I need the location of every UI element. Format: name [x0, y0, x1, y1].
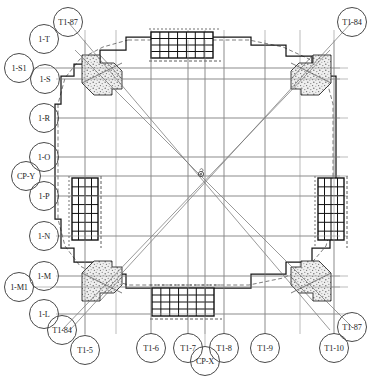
grid-bubble-label: 1-R	[38, 113, 50, 122]
grid-bubble-label: 1-M	[37, 271, 51, 280]
grid-bubble-t1-9[interactable]: T1-9	[250, 333, 280, 363]
grid-bubble-label: T1-5	[77, 345, 92, 354]
corner-top-right	[291, 55, 331, 95]
grid-bubble-1-p[interactable]: 1-P	[29, 181, 59, 211]
grid-bubble-t1-87[interactable]: T1-87	[53, 7, 83, 37]
rebar-block-top	[149, 29, 221, 61]
grid-bubble-label: T1-84	[342, 17, 361, 26]
grid-bubble-label: 1-O	[38, 152, 50, 161]
grid-bubble-1-s[interactable]: 1-S	[30, 64, 60, 94]
grid-bubble-label: T1-9	[257, 343, 272, 352]
grid-bubble-label: T1-87	[342, 322, 361, 331]
grid-bubble-1-r[interactable]: 1-R	[29, 103, 59, 133]
grid-bubble-label: 1-T	[38, 34, 49, 43]
grid-bubble-label: 1-S	[40, 74, 51, 83]
grid-bubble-label: T1-8	[216, 343, 231, 352]
grid-bubble-t1-84[interactable]: T1-84	[47, 315, 77, 345]
grid-bubble-1-m1[interactable]: 1-M1	[4, 272, 34, 302]
drawing-canvas: 1-T1-S11-S1-R1-OCP-Y1-P1-N1-M1-M11-LT1-5…	[0, 0, 376, 381]
grid-bubble-label: CP-Y	[17, 171, 35, 180]
grid-bubble-t1-87[interactable]: T1-87	[337, 312, 367, 342]
grid-bubble-label: CP-X	[196, 356, 214, 365]
grid-bubble-t1-84[interactable]: T1-84	[337, 7, 367, 37]
rebar-block-right	[315, 176, 347, 248]
corner-concrete-pads	[82, 55, 331, 301]
grid-bubble-t1-6[interactable]: T1-6	[136, 333, 166, 363]
grid-bubble-label: 1-M1	[10, 282, 28, 291]
grid-bubble-label: T1-87	[58, 17, 77, 26]
grid-bubble-label: 1-N	[38, 231, 50, 240]
grid-bubble-label: T1-84	[52, 325, 71, 334]
grid-bubble-t1-8[interactable]: T1-8	[209, 333, 239, 363]
grid-bubble-label: T1-6	[143, 343, 158, 352]
corner-bottom-right	[291, 261, 331, 301]
grid-bubble-t1-5[interactable]: T1-5	[70, 335, 100, 365]
center-axis-marker	[198, 169, 203, 177]
grid-bubble-label: 1-S1	[12, 63, 27, 72]
grid-bubble-label: 1-P	[39, 191, 50, 200]
grid-bubble-label: T1-10	[324, 343, 343, 352]
grid-bubble-label: 1-L	[38, 309, 49, 318]
grid-bubble-1-n[interactable]: 1-N	[29, 221, 59, 251]
